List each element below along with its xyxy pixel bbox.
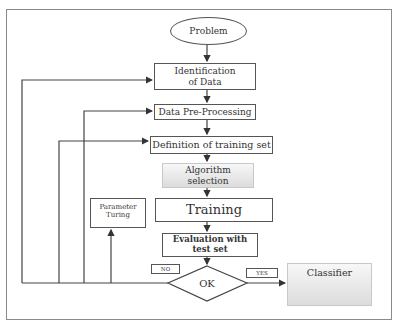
- result-classifier: Classifier: [287, 263, 372, 306]
- step-data-pre-processing: Data Pre-Processing: [154, 104, 256, 120]
- step-label: Definition of training set: [152, 140, 270, 151]
- start-label: Problem: [189, 26, 227, 36]
- step-definition-of-training-set: Definition of training set: [150, 136, 273, 154]
- side-box-label: Parameter Turing: [98, 203, 138, 219]
- step-algorithm-selection: Algorithm selection: [162, 163, 254, 188]
- step-label: Training: [186, 203, 242, 218]
- step-label: Identification of Data: [170, 66, 240, 87]
- step-label: Evaluation with test set: [168, 235, 252, 255]
- step-evaluation-with-test-set: Evaluation with test set: [162, 233, 258, 257]
- yes-text: YES: [256, 270, 267, 276]
- step-label: Data Pre-Processing: [159, 107, 252, 117]
- branch-no-label: NO: [151, 264, 180, 274]
- step-training: Training: [155, 198, 273, 222]
- parameter-turing-box: Parameter Turing: [90, 198, 146, 228]
- decision-label: OK: [199, 278, 215, 289]
- no-text: NO: [161, 266, 170, 272]
- branch-yes-label: YES: [246, 268, 278, 278]
- step-identification-of-data: Identification of Data: [154, 63, 256, 90]
- start-node-problem: Problem: [170, 17, 247, 45]
- step-label: Algorithm selection: [178, 165, 238, 186]
- result-label: Classifier: [307, 268, 352, 279]
- decision-ok-label: OK: [190, 278, 224, 289]
